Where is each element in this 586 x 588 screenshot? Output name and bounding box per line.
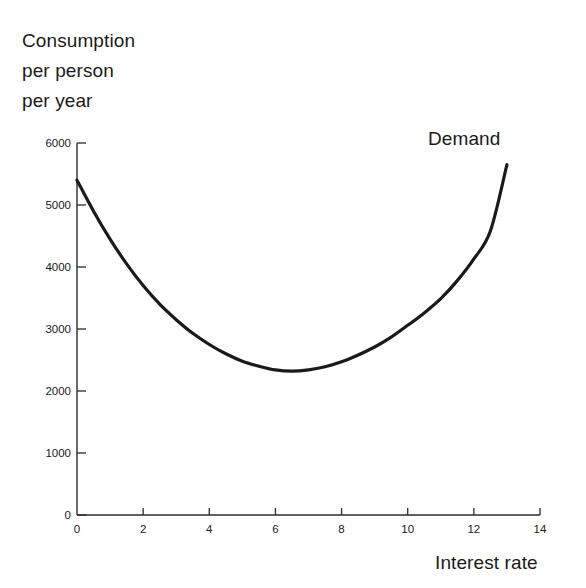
y-axis-tick-label: 3000 bbox=[45, 323, 71, 335]
x-axis-tick-label: 12 bbox=[467, 523, 480, 535]
x-axis-tick-label: 2 bbox=[140, 523, 146, 535]
y-axis-tick-label: 2000 bbox=[45, 385, 71, 397]
x-axis-tick-label: 4 bbox=[206, 523, 213, 535]
y-axis-tick-label: 6000 bbox=[45, 137, 71, 149]
y-axis-tick-label: 4000 bbox=[45, 261, 71, 273]
y-axis-ticks: 0100020003000400050006000 bbox=[45, 137, 86, 521]
demand-curve bbox=[77, 165, 507, 371]
axes bbox=[77, 143, 540, 515]
x-axis-tick-label: 8 bbox=[338, 523, 344, 535]
x-axis-ticks: 02468101214 bbox=[74, 508, 547, 535]
chart-figure: Consumption per person per year Demand I… bbox=[0, 0, 586, 588]
x-axis-tick-label: 0 bbox=[74, 523, 80, 535]
y-axis-tick-label: 5000 bbox=[45, 199, 71, 211]
chart-plot-area: 0100020003000400050006000 02468101214 bbox=[0, 0, 586, 588]
y-axis-tick-label: 1000 bbox=[45, 447, 71, 459]
x-axis-tick-label: 10 bbox=[401, 523, 414, 535]
x-axis-tick-label: 6 bbox=[272, 523, 278, 535]
y-axis-tick-label: 0 bbox=[65, 509, 71, 521]
x-axis-tick-label: 14 bbox=[534, 523, 547, 535]
